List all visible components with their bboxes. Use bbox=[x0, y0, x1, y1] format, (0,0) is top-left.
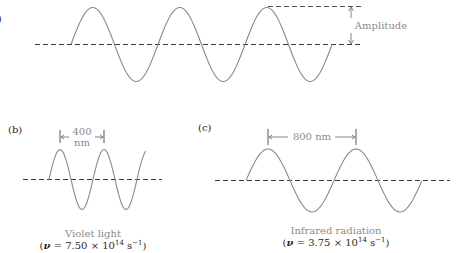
panel-b-label: (b) bbox=[8, 124, 22, 135]
infrared-caption: Infrared radiation bbox=[290, 225, 382, 236]
violet-light-caption: Violet light bbox=[64, 228, 121, 239]
wavelength-unit-nm: nm bbox=[74, 137, 90, 148]
amplitude-label: Amplitude bbox=[354, 20, 407, 31]
panel-a-label: (a) bbox=[0, 13, 2, 24]
violet-frequency-formula: (ν = 7.50 × 1014 s−1) bbox=[40, 239, 147, 251]
wavelength-label-800: 800 nm bbox=[293, 131, 332, 142]
amplitude-arrow bbox=[349, 7, 354, 44]
wave-diagram: (a) Amplitude (b) 400 nm Violet light (ν… bbox=[0, 0, 465, 253]
panel-c-label: (c) bbox=[198, 122, 212, 133]
panel-b: (b) 400 nm Violet light (ν = 7.50 × 1014… bbox=[8, 124, 162, 251]
infrared-frequency-formula: (ν = 3.75 × 1014 s−1) bbox=[283, 236, 390, 248]
panel-a: (a) Amplitude bbox=[0, 7, 407, 82]
wavelength-value-400: 400 bbox=[72, 126, 91, 137]
panel-c: (c) 800 nm Infrared radiation (ν = 3.75 … bbox=[198, 122, 450, 248]
